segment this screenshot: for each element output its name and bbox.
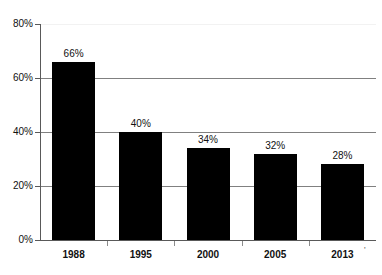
y-axis-label-wrap-20%: 20% (0, 181, 33, 191)
y-axis-label-wrap-80%: 80% (0, 19, 33, 29)
bar-chart: 0%20%40%60%80%66%198840%199534%200032%20… (0, 0, 382, 275)
data-label-1995: 40% (131, 119, 151, 129)
data-label-1988: 66% (64, 49, 84, 59)
x-axis-label-2013: 2013 (331, 250, 353, 260)
data-label-2000: 34% (198, 135, 218, 145)
y-axis-line (40, 24, 41, 241)
x-axis-label-1995: 1995 (130, 250, 152, 260)
bar-2013[interactable] (321, 164, 364, 240)
data-label-2013: 28% (332, 151, 352, 161)
y-axis-label-wrap-40%: 40% (0, 127, 33, 137)
y-axis-label: 80% (0, 19, 33, 29)
x-axis-tick-1 (107, 241, 108, 246)
y-axis-label-wrap-0%: 0% (0, 235, 33, 245)
bar-2000[interactable] (187, 148, 230, 240)
x-axis-tick-2 (174, 241, 175, 246)
y-axis-label: 20% (0, 181, 33, 191)
data-label-2005: 32% (265, 141, 285, 151)
x-axis-label-1988: 1988 (62, 250, 84, 260)
x-axis-tick-4 (309, 241, 310, 246)
y-axis-label: 40% (0, 127, 33, 137)
x-axis-label-2005: 2005 (264, 250, 286, 260)
y-axis-label: 60% (0, 73, 33, 83)
x-axis-line (40, 240, 376, 241)
gridline-80% (40, 24, 376, 25)
stray-mark: ' (364, 245, 366, 255)
bar-1988[interactable] (52, 62, 95, 240)
x-axis-tick-3 (242, 241, 243, 246)
y-axis-label-wrap-60%: 60% (0, 73, 33, 83)
bar-2005[interactable] (254, 154, 297, 240)
bar-1995[interactable] (119, 132, 162, 240)
x-axis-label-2000: 2000 (197, 250, 219, 260)
y-axis-label: 0% (0, 235, 33, 245)
